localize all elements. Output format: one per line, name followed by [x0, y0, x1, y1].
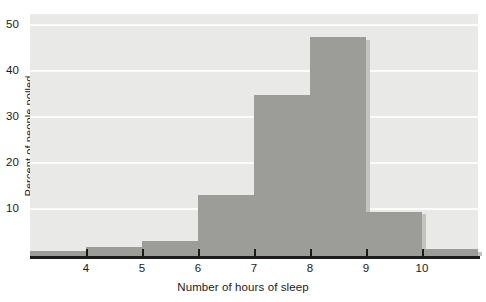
bar [198, 195, 254, 256]
x-axis-tick [254, 249, 256, 257]
x-axis-tick-label: 5 [129, 262, 155, 274]
y-axis-tick-label: 40 [6, 64, 28, 76]
bar [254, 95, 310, 256]
bar [422, 249, 478, 256]
bar [86, 247, 142, 256]
x-axis-tick [422, 249, 424, 257]
x-axis-tick-label: 6 [185, 262, 211, 274]
bar-chart-figure: Percent of people polled 1020304050 4567… [0, 0, 486, 302]
x-axis-tick [86, 249, 88, 257]
bar [366, 212, 422, 256]
y-axis-tick-label: 30 [6, 110, 28, 122]
x-axis-tick-label: 8 [297, 262, 323, 274]
y-axis-tick-label: 20 [6, 156, 28, 168]
x-axis-tick-label: 9 [353, 262, 379, 274]
x-axis-tick [310, 249, 312, 257]
bar [142, 241, 198, 256]
x-axis-title: Number of hours of sleep [0, 281, 486, 293]
bars-group [30, 14, 478, 256]
bar [310, 37, 366, 256]
x-axis-tick [142, 249, 144, 257]
x-axis-tick-label: 10 [409, 262, 435, 274]
y-axis-tick-label: 10 [6, 202, 28, 214]
x-axis-tick [366, 249, 368, 257]
x-axis-tick-label: 4 [73, 262, 99, 274]
plot-area [30, 14, 478, 256]
x-axis-tick-label: 7 [241, 262, 267, 274]
y-axis-tick-label: 50 [6, 18, 28, 30]
x-axis-tick [198, 249, 200, 257]
